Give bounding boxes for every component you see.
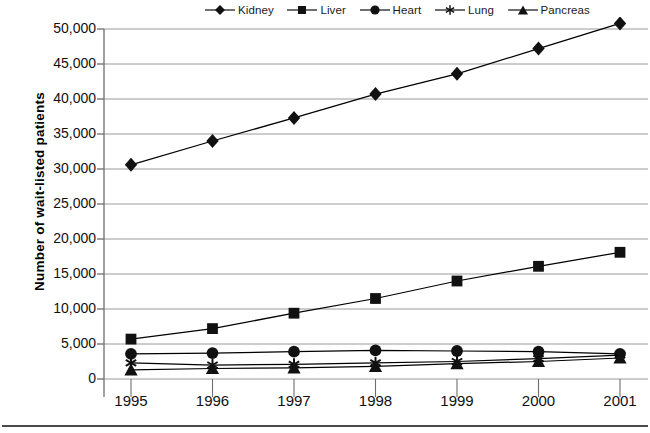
chart-figure: Kidney Liver Heart: [0, 0, 650, 433]
plot-area: [0, 0, 650, 433]
data-point-square: [370, 293, 381, 304]
series-kidney: [125, 16, 626, 171]
data-point-square: [126, 334, 137, 345]
series-liver: [126, 247, 626, 345]
data-point-diamond: [614, 16, 626, 30]
data-point-circle: [451, 345, 463, 357]
data-point-diamond: [288, 111, 300, 125]
data-point-square: [207, 323, 218, 334]
data-point-diamond: [206, 134, 218, 148]
data-point-circle: [207, 347, 219, 359]
data-point-square: [452, 276, 463, 287]
data-point-square: [615, 247, 626, 258]
data-point-diamond: [125, 158, 137, 172]
data-point-square: [289, 308, 300, 319]
data-point-diamond: [451, 67, 463, 81]
data-point-square: [533, 261, 544, 272]
data-point-circle: [370, 344, 382, 356]
data-point-circle: [288, 346, 300, 358]
data-point-diamond: [532, 42, 544, 56]
